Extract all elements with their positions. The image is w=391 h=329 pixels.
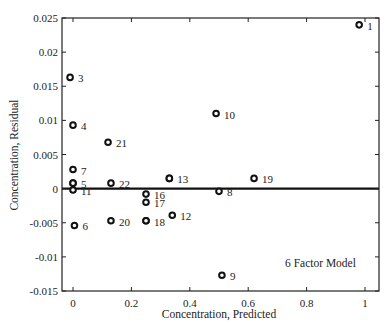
point-label: 7	[81, 165, 87, 177]
point-label: 18	[154, 216, 166, 228]
point-label: 11	[81, 185, 92, 197]
x-tick-label: 1	[362, 297, 368, 309]
y-tick-label: 0.025	[33, 12, 58, 24]
point-label: 10	[224, 109, 236, 121]
data-point-marker	[72, 223, 78, 229]
point-label: 3	[78, 72, 84, 84]
point-label: 22	[119, 178, 130, 190]
data-point-marker	[105, 139, 111, 145]
x-axis-label: Concentration, Predicted	[162, 308, 277, 321]
x-tick-label: 0.8	[300, 297, 314, 309]
point-label: 13	[177, 173, 189, 185]
data-point-marker	[167, 176, 173, 182]
data-point-marker	[70, 187, 76, 193]
plot-border	[62, 18, 379, 291]
data-point-marker	[70, 180, 76, 186]
point-label: 9	[230, 270, 236, 282]
point-label: 12	[180, 210, 191, 222]
y-tick-label: -0.01	[35, 251, 58, 263]
data-point-marker	[356, 22, 362, 28]
data-point-marker	[70, 122, 76, 128]
point-label: 21	[116, 137, 127, 149]
point-labels: 134211075112262016171813128199	[78, 20, 373, 282]
data-point-marker	[143, 191, 149, 197]
data-point-marker	[143, 199, 149, 205]
model-annotation: 6 Factor Model	[285, 257, 356, 269]
data-point-marker	[251, 176, 257, 182]
y-tick-label: 0	[53, 183, 59, 195]
y-tick-label: -0.005	[30, 217, 59, 229]
y-tick-label: -0.015	[30, 285, 59, 297]
data-point-marker	[213, 111, 219, 117]
point-label: 1	[367, 20, 373, 32]
data-point-marker	[108, 218, 114, 224]
y-tick-label: 0.015	[33, 80, 58, 92]
y-axis-label: Concentration, Residual	[8, 99, 21, 210]
y-tick-label: 0.02	[39, 46, 58, 58]
y-tick-label: 0.005	[33, 149, 58, 161]
data-points	[67, 22, 362, 278]
point-label: 17	[154, 197, 166, 209]
data-point-marker	[216, 189, 222, 195]
y-tick-label: 0.01	[39, 114, 58, 126]
data-point-marker	[108, 180, 114, 186]
data-point-marker	[169, 212, 175, 218]
data-point-marker	[143, 218, 149, 224]
point-label: 20	[119, 216, 130, 228]
data-point-marker	[67, 75, 73, 81]
data-point-marker	[70, 167, 76, 173]
point-label: 19	[262, 173, 274, 185]
point-label: 6	[82, 220, 88, 232]
point-label: 8	[227, 186, 233, 198]
residual-scatter-chart: 00.20.40.60.810.0250.020.0150.010.0050-0…	[0, 0, 391, 329]
x-tick-label: 0.2	[125, 297, 139, 309]
point-label: 4	[81, 120, 87, 132]
data-point-marker	[219, 273, 225, 279]
x-tick-label: 0	[70, 297, 76, 309]
plot-frame	[62, 18, 379, 291]
